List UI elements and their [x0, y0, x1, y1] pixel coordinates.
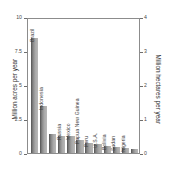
bar-label: Nigeria — [120, 135, 125, 152]
bar-label: Brazil — [30, 29, 35, 42]
bar-label: Mexico — [66, 124, 71, 141]
y-tick-label-left: 5 — [6, 83, 22, 88]
y-tick-label-left: 2.5 — [6, 117, 22, 122]
chart-figure: Million acres per year Million hectares … — [0, 0, 169, 179]
bar-label: Peru — [84, 136, 89, 147]
y-tick-label-left: 10 — [6, 15, 22, 20]
bar-label: Sudan — [111, 136, 116, 151]
bar — [40, 106, 47, 153]
y-tick-label-right: 1 — [144, 117, 160, 122]
plot-area: BrazilIndonesiaRussiaMexicoPapua New Gui… — [27, 18, 140, 154]
y-tick-right — [140, 120, 143, 121]
bar-label: U.S.A. — [93, 132, 98, 147]
y-tick-right — [140, 18, 143, 19]
y-axis-label-right: Million hectares per year — [155, 41, 161, 137]
bar-label: Papua New Guinea — [75, 98, 80, 144]
y-tick-label-right: 0 — [144, 151, 160, 156]
y-tick-label-left: 7.5 — [6, 49, 22, 54]
y-tick-label-left: 0 — [6, 151, 22, 156]
y-tick-right — [140, 154, 143, 155]
y-axis-label-left: Million acres per year — [12, 41, 18, 137]
y-tick-right — [140, 52, 143, 53]
y-tick-label-right: 4 — [144, 15, 160, 20]
bar-label: Russia — [57, 124, 62, 140]
bar — [131, 149, 138, 153]
bar-label: Bolivia — [102, 134, 107, 150]
bar-label: Indonesia — [39, 87, 44, 110]
y-tick-label-right: 2 — [144, 83, 160, 88]
y-tick-right — [140, 86, 143, 87]
y-tick-label-right: 3 — [144, 49, 160, 54]
